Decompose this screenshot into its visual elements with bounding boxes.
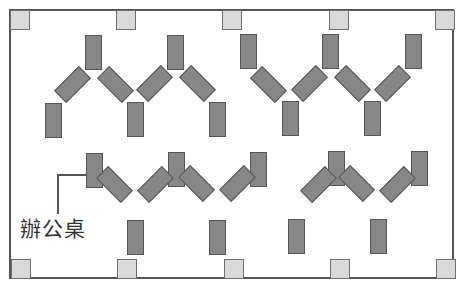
column-pillar [224,259,244,279]
column-pillar [117,259,137,279]
office-desk [322,34,339,69]
office-desk [405,34,422,69]
office-desk [45,103,62,138]
column-pillar [330,259,350,279]
office-desk [209,102,226,137]
desk-label: 辦公桌 [20,212,86,242]
column-pillar [329,10,349,30]
office-desk [127,102,144,137]
office-desk [288,219,305,254]
column-pillar [11,259,31,279]
office-desk [127,220,144,255]
label-leader-horizontal [57,174,87,176]
column-pillar [10,10,30,30]
floor-plan-diagram: 辦公桌 [0,0,464,289]
office-desk [282,101,299,136]
office-desk [411,151,428,186]
office-desk [364,101,381,136]
office-desk [85,35,102,70]
office-desk [209,220,226,255]
office-desk [167,35,184,70]
column-pillar [222,10,242,30]
column-pillar [435,10,455,30]
office-desk [240,34,257,69]
office-desk [250,152,267,187]
label-leader-vertical [57,174,59,214]
column-pillar [436,259,456,279]
office-desk [370,219,387,254]
column-pillar [116,10,136,30]
